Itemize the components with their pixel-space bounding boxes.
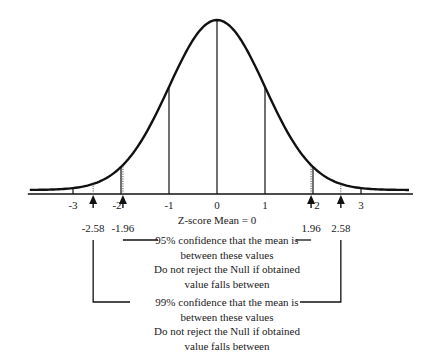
tick-label: -3 bbox=[68, 199, 78, 211]
arrow-up-icon bbox=[337, 195, 345, 204]
tick-layer: -3-2-10123 bbox=[68, 20, 364, 211]
annotation-text: between these values bbox=[181, 249, 274, 261]
annotation-text: value falls between bbox=[185, 340, 270, 352]
bracket-left bbox=[93, 240, 130, 302]
tick-label: 3 bbox=[358, 199, 364, 211]
tick-label: -2 bbox=[112, 199, 121, 211]
tick-label: 1 bbox=[262, 199, 268, 211]
tick-label: 0 bbox=[214, 199, 220, 211]
annotation-text: between these values bbox=[181, 311, 274, 323]
tick-label: -1 bbox=[164, 199, 173, 211]
annotation-text: 99% confidence that the mean is bbox=[155, 296, 298, 308]
critical-value-label: 1.96 bbox=[301, 222, 321, 234]
critical-value-label: 2.58 bbox=[331, 222, 351, 234]
arrow-up-icon bbox=[89, 195, 97, 204]
normal-curve bbox=[30, 20, 409, 190]
critical-value-label: -1.96 bbox=[111, 222, 134, 234]
annotation-text: 95% confidence that the mean is bbox=[155, 234, 298, 246]
annotation-text: Do not reject the Null if obtained bbox=[154, 325, 301, 337]
curve-layer bbox=[28, 20, 413, 194]
annotation-layer: 95% confidence that the mean isbetween t… bbox=[93, 234, 341, 352]
annotation-text: value falls between bbox=[185, 278, 270, 290]
bracket-right bbox=[300, 240, 341, 302]
annotation-text: Do not reject the Null if obtained bbox=[154, 263, 301, 275]
normal-distribution-diagram: -3-2-10123 -2.58-1.961.962.58 Z-score Me… bbox=[0, 0, 425, 352]
tick-label: 2 bbox=[314, 199, 320, 211]
x-axis-label: Z-score Mean = 0 bbox=[178, 214, 257, 226]
critical-value-label: -2.58 bbox=[82, 222, 105, 234]
